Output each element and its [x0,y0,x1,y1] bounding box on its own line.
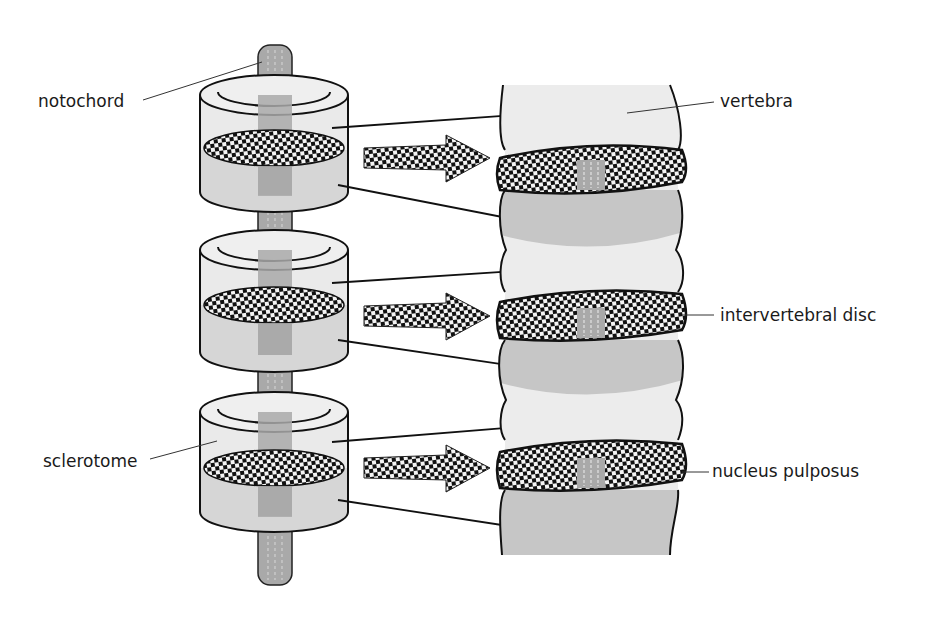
transform-arrow-2 [364,293,490,340]
label-nucleus-pulposus: nucleus pulposus [712,463,859,480]
intervertebral-disc-2 [497,290,686,340]
intervertebral-disc-3 [497,440,686,490]
sclerotome-segment-2 [200,230,348,372]
sclerotome-segment-3 [200,392,348,532]
transform-arrow-1 [364,135,490,182]
label-notochord: notochord [38,93,124,110]
transform-arrow-3 [364,445,490,492]
label-vertebra: vertebra [720,93,793,110]
intervertebral-disc-1 [497,146,686,194]
sclerotome-segment-1 [200,75,348,212]
label-sclerotome: sclerotome [43,453,138,470]
label-intervertebral-disc: intervertebral disc [720,307,876,324]
